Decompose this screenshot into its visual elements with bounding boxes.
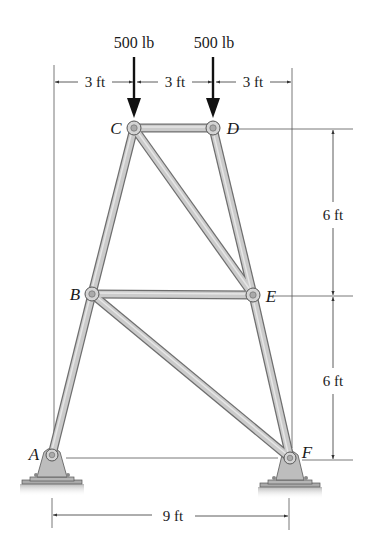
load-arrow-d [206, 57, 220, 118]
top-dim-label-1: 3 ft [85, 74, 106, 90]
arrow-down-icon [127, 98, 141, 118]
joint-e [246, 288, 260, 302]
bottom-dim-label: 9 ft [163, 508, 184, 524]
joint-c [127, 121, 141, 135]
joint-f [284, 452, 296, 464]
truss-diagram: 3 ft 3 ft 3 ft 6 ft 6 ft 9 ft [0, 0, 374, 557]
load-arrow-c [127, 57, 141, 118]
top-dim-label-2: 3 ft [165, 74, 186, 90]
joint-label-d: D [226, 119, 240, 138]
right-dim-lower-label: 6 ft [323, 373, 344, 389]
joint-d [206, 121, 220, 135]
joint-label-a: A [28, 445, 40, 464]
load-label-d: 500 lb [194, 34, 234, 51]
member-bc [92, 128, 134, 294]
top-dim-label-3: 3 ft [243, 74, 264, 90]
load-label-c: 500 lb [114, 34, 154, 51]
joint-label-e: E [265, 287, 277, 306]
joint-a [46, 449, 58, 461]
joint-label-b: B [70, 285, 81, 304]
joint-b [85, 287, 99, 301]
member-ab [52, 294, 92, 455]
joint-label-f: F [301, 443, 313, 462]
joint-label-c: C [110, 119, 122, 138]
arrow-down-icon [206, 98, 220, 118]
right-dim-upper-label: 6 ft [323, 207, 344, 223]
